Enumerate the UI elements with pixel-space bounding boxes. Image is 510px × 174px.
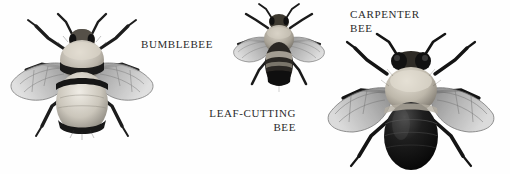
leaf-cutting-bee-illustration	[232, 2, 326, 94]
caption-bumblebee: BUMBLEBEE	[141, 37, 213, 51]
caption-leaf-cutting-bee: LEAF-CUTTINGBEE	[196, 106, 296, 134]
caption-carpenter-bee: CARPENTERBEE	[350, 7, 440, 35]
caption-carpenter-line2: BEE	[350, 22, 373, 34]
caption-leaf-cutting-line1: LEAF-CUTTING	[209, 107, 296, 119]
leaf-cutting-bee-abdomen	[265, 42, 293, 86]
caption-carpenter-line1: CARPENTER	[350, 8, 420, 20]
bumblebee-illustration	[8, 8, 156, 148]
caption-leaf-cutting-line2: BEE	[273, 121, 296, 133]
bee-illustration-plate: BUMBLEBEE	[0, 0, 510, 174]
carpenter-bee-illustration	[325, 28, 497, 172]
bumblebee-abdomen	[56, 72, 108, 134]
carpenter-bee-abdomen	[384, 102, 438, 170]
